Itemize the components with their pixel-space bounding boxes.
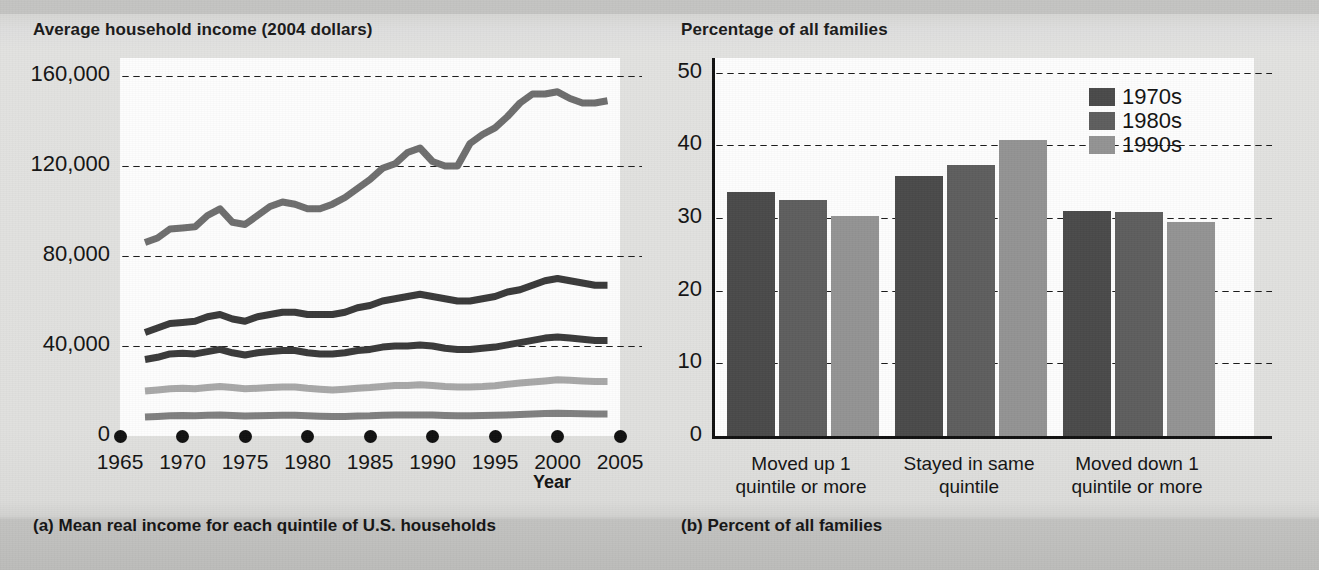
y-tick-label-10: 10 — [665, 348, 702, 374]
y-tick-label-20: 20 — [665, 276, 702, 302]
category-label-2: Stayed in samequintile — [881, 452, 1057, 498]
panel-a-plot-area — [120, 58, 620, 436]
category-label-line: Moved down 1 — [1049, 452, 1225, 475]
legend-item-1980s[interactable]: 1980s — [1089, 110, 1182, 132]
panel-a-axis-title: Average household income (2004 dollars) — [33, 20, 373, 40]
y-tick-label-0: 0 — [0, 421, 110, 447]
y-tick-label-40: 40 — [665, 130, 702, 156]
y-tick-label-30: 30 — [665, 203, 702, 229]
panel-a-caption: (a) Mean real income for each quintile o… — [33, 516, 496, 536]
panel-b-legend: 1970s1980s1990s — [1089, 86, 1182, 158]
y-tick-label-40000: 40,000 — [0, 331, 110, 357]
panel-b-caption: (b) Percent of all families — [681, 516, 882, 536]
legend-label-1980s: 1980s — [1122, 110, 1182, 132]
gridline-40 — [714, 144, 1272, 147]
x-tick-dot-1965 — [114, 430, 127, 443]
bar-1970s-1 — [727, 192, 775, 436]
x-tick-dot-1985 — [364, 430, 377, 443]
gridline-50 — [714, 72, 1272, 75]
x-tick-label-1970: 1970 — [148, 450, 218, 474]
y-tick-label-0: 0 — [665, 421, 702, 447]
bar-1990s-1 — [831, 216, 879, 436]
legend-item-1990s[interactable]: 1990s — [1089, 134, 1182, 156]
category-label-1: Moved up 1quintile or more — [713, 452, 889, 498]
panel-a-x-axis-label: Year — [533, 472, 571, 493]
x-tick-dot-2005 — [614, 430, 627, 443]
category-label-line: quintile or more — [713, 475, 889, 498]
x-tick-dot-1995 — [489, 430, 502, 443]
bar-1980s-1 — [779, 200, 827, 436]
x-tick-dot-1975 — [239, 430, 252, 443]
y-tick-label-50: 50 — [665, 58, 702, 84]
x-tick-dot-1970 — [176, 430, 189, 443]
bar-1980s-3 — [1115, 212, 1163, 436]
figure-page: Average household income (2004 dollars) … — [0, 0, 1319, 570]
category-label-3: Moved down 1quintile or more — [1049, 452, 1225, 498]
bar-1970s-2 — [895, 176, 943, 436]
legend-item-1970s[interactable]: 1970s — [1089, 86, 1182, 108]
legend-swatch-icon-1970s — [1089, 88, 1115, 106]
x-tick-label-1965: 1965 — [85, 450, 155, 474]
bar-1990s-3 — [1167, 222, 1215, 436]
category-label-line: Stayed in same — [881, 452, 1057, 475]
x-tick-label-1990: 1990 — [398, 450, 468, 474]
bar-1990s-2 — [999, 140, 1047, 436]
gridline-80000 — [120, 255, 642, 258]
x-tick-dot-1980 — [301, 430, 314, 443]
bar-1970s-3 — [1063, 211, 1111, 436]
x-tick-label-1985: 1985 — [335, 450, 405, 474]
y-tick-label-160000: 160,000 — [0, 61, 110, 87]
legend-swatch-icon-1980s — [1089, 112, 1115, 130]
panel-b-y-axis-line — [712, 58, 715, 438]
panel-b-bar-chart: Percentage of all families 01020304050 1… — [665, 0, 1319, 570]
category-label-line: Moved up 1 — [713, 452, 889, 475]
x-tick-label-1995: 1995 — [460, 450, 530, 474]
x-tick-dot-1990 — [426, 430, 439, 443]
y-tick-label-80000: 80,000 — [0, 241, 110, 267]
panel-b-axis-title: Percentage of all families — [681, 20, 888, 40]
panel-a-line-chart: Average household income (2004 dollars) … — [0, 0, 665, 570]
x-tick-dot-2000 — [551, 430, 564, 443]
legend-swatch-icon-1990s — [1089, 136, 1115, 154]
x-tick-label-1975: 1975 — [210, 450, 280, 474]
panel-b-x-axis-line — [712, 436, 1272, 439]
gridline-40000 — [120, 345, 642, 348]
x-tick-label-2000: 2000 — [523, 450, 593, 474]
bar-1980s-2 — [947, 165, 995, 436]
category-label-line: quintile or more — [1049, 475, 1225, 498]
legend-label-1990s: 1990s — [1122, 134, 1182, 156]
gridline-160000 — [120, 75, 642, 78]
legend-label-1970s: 1970s — [1122, 86, 1182, 108]
y-tick-label-120000: 120,000 — [0, 151, 110, 177]
x-tick-label-2005: 2005 — [585, 450, 655, 474]
category-label-line: quintile — [881, 475, 1057, 498]
gridline-120000 — [120, 165, 642, 168]
x-tick-label-1980: 1980 — [273, 450, 343, 474]
